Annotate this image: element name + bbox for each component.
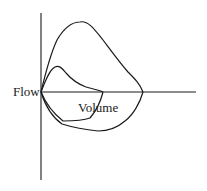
volume-axis-label: Volume xyxy=(78,101,118,114)
flow-volume-diagram: Flow Volume xyxy=(0,0,207,191)
small-loop-expiratory-curve xyxy=(41,66,103,92)
flow-axis-label: Flow xyxy=(13,85,40,98)
large-loop-expiratory-curve xyxy=(41,22,143,92)
